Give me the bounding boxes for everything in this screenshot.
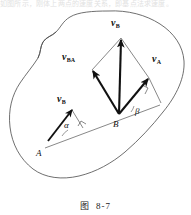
caption-number: 8-7: [96, 201, 111, 211]
label-vB-top: vB: [111, 17, 120, 29]
label-vB-at-A-base: v: [57, 93, 61, 104]
label-vA-base: v: [152, 53, 156, 64]
label-angle-alpha: α: [64, 120, 69, 130]
caption-prefix: 图: [80, 201, 90, 211]
label-vB-at-A-sub: B: [62, 99, 66, 105]
vector-vA: [119, 79, 148, 114]
parallelogram-side-right: [121, 38, 149, 78]
label-vB-top-base: v: [111, 17, 115, 28]
angle-arc-alpha: [62, 130, 68, 136]
label-vA-sub: A: [157, 59, 161, 65]
label-vB-at-A: vB: [57, 93, 66, 105]
line-AB: [45, 105, 160, 148]
label-angle-beta: β: [135, 106, 139, 116]
label-vA: vA: [152, 53, 161, 65]
vector-vB-at-B: [119, 40, 121, 114]
label-point-A: A: [36, 148, 42, 158]
label-point-B: B: [113, 119, 119, 129]
projection-line-vB-at-A: [72, 110, 83, 128]
label-vB-top-sub: B: [116, 23, 120, 29]
label-vBA-base: v: [62, 51, 66, 62]
angle-arc-beta: [131, 106, 134, 112]
label-vBA: vBA: [62, 51, 75, 63]
outline-notch: [38, 32, 56, 58]
vector-vBA: [93, 71, 119, 114]
figure-drawing: [0, 0, 191, 215]
parallelogram-side-left: [92, 38, 121, 70]
label-vBA-sub: BA: [67, 57, 75, 63]
figure-container: 如图所示，刚体上两点的速度关系，即基点法求速度。: [0, 0, 191, 215]
figure-caption: 图8-7: [0, 199, 191, 212]
projection-line-vA: [149, 78, 161, 103]
